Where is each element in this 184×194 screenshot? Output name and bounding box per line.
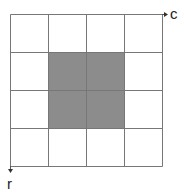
grid-diagram <box>0 0 184 194</box>
r-axis-label: r <box>7 176 12 191</box>
r-axis-arrow <box>8 166 13 173</box>
c-axis-label: c <box>170 6 178 21</box>
grid-lines <box>11 15 163 167</box>
